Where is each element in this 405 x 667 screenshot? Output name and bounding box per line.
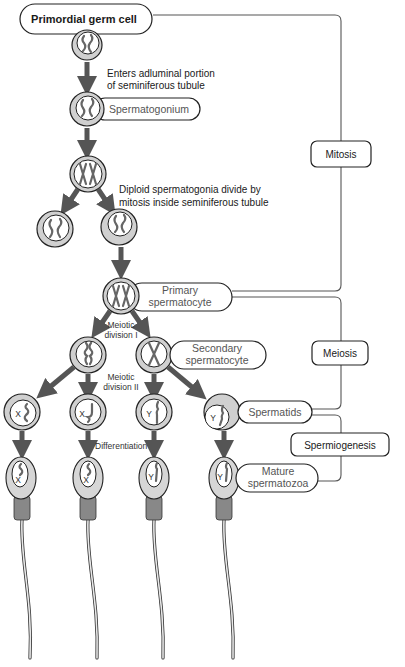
x-chromosome-label: X	[79, 409, 85, 419]
primary-label-2: spermatocyte	[148, 296, 211, 308]
diploid-text-2: mitosis inside seminiferous tubule	[119, 197, 269, 208]
meiosis-label: Meiosis	[323, 348, 357, 359]
primary-spermatocyte-cell-icon	[103, 278, 139, 314]
arrow-diag-right-icon	[168, 367, 199, 393]
daughter-cell-right-icon	[101, 209, 137, 245]
arrow-diag-left-icon	[66, 189, 78, 207]
spermatogenesis-diagram: Mitosis Meiosis Spermiogenesis Primordia…	[0, 0, 405, 667]
spermatid-2-cell-icon: X	[70, 394, 106, 430]
spermatogonium-box: Spermatogonium	[94, 98, 200, 120]
meiotic-division-2-text-1: Meiotic	[108, 372, 136, 382]
spermiogenesis-phase-box: Spermiogenesis	[291, 433, 389, 456]
arrow-diag-right-icon	[98, 189, 110, 207]
meiosis-phase-box: Meiosis	[312, 341, 368, 365]
diploid-text-1: Diploid spermatogonia divide by	[119, 184, 261, 195]
spermatozoon-1-icon: X	[6, 457, 36, 658]
mitosis-label: Mitosis	[325, 149, 356, 160]
y-chromosome-label: Y	[217, 472, 223, 482]
secondary-spermatocyte-left-cell-icon	[70, 337, 106, 373]
meiotic-division-1-text-2: division I	[104, 330, 137, 340]
x-chromosome-label: X	[83, 475, 89, 485]
spermatozoon-4-icon: Y	[209, 457, 239, 658]
differentiation-text: Differentiation	[95, 441, 148, 451]
spermatozoon-2-icon: X	[73, 457, 103, 658]
daughter-cell-left-icon	[37, 211, 73, 247]
y-chromosome-label: Y	[148, 472, 154, 482]
meiotic-division-1-text-1: Meiotic	[108, 320, 136, 330]
spermatid-3-cell-icon: Y	[136, 394, 172, 430]
x-chromosome-label: X	[15, 409, 21, 419]
primordial-label: Primordial germ cell	[31, 13, 137, 25]
mature-spermatozoa-box: Mature spermatozoa	[236, 464, 318, 492]
y-chromosome-label: Y	[146, 409, 152, 419]
spermatozoon-3-icon: Y	[139, 457, 169, 658]
spermatid-4-cell-icon: Y	[204, 394, 240, 430]
x-chromosome-label: X	[15, 475, 21, 485]
primordial-cell-icon	[72, 30, 102, 60]
spermatogonium-cell-icon	[70, 92, 104, 126]
secondary-spermatocyte-right-cell-icon	[136, 337, 172, 373]
mature-label-2: spermatozoa	[248, 477, 309, 489]
spermatogonium-label: Spermatogonium	[109, 103, 189, 115]
secondary-label-2: spermatocyte	[185, 354, 248, 366]
meiotic-division-2-text-2: division II	[103, 382, 138, 392]
enters-text-1: Enters adluminal portion	[107, 68, 215, 79]
secondary-spermatocyte-box: Secondary spermatocyte	[170, 341, 266, 369]
enters-text-2: of seminiferous tubule	[107, 80, 205, 91]
primary-label-1: Primary	[162, 284, 199, 296]
spermiogenesis-label: Spermiogenesis	[304, 440, 376, 451]
secondary-label-1: Secondary	[192, 342, 243, 354]
spermatid-1-cell-icon: X	[4, 394, 40, 430]
primary-spermatocyte-box: Primary spermatocyte	[128, 283, 232, 311]
dividing-spermatogonium-cell-icon	[70, 156, 106, 192]
arrow-diag-left-icon	[44, 367, 74, 392]
mature-label-1: Mature	[262, 465, 295, 477]
mitosis-phase-box: Mitosis	[311, 141, 371, 167]
y-chromosome-label: Y	[210, 413, 216, 423]
spermatids-box: Spermatids	[238, 401, 312, 423]
spermatids-label: Spermatids	[248, 406, 301, 418]
